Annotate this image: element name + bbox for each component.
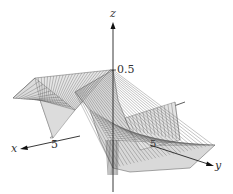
z-axis-arrow-icon xyxy=(111,22,116,29)
surface-plot xyxy=(0,0,233,194)
x-tick-label: 5 xyxy=(51,139,58,150)
y-axis-arrow-icon xyxy=(206,162,214,167)
y-axis-label: y xyxy=(215,160,221,171)
z-axis-label: z xyxy=(110,8,116,19)
y-tick-label: 5 xyxy=(150,139,156,149)
z-tick-label: 0.5 xyxy=(117,64,135,75)
x-axis-label: x xyxy=(11,143,17,154)
x-axis-arrow-icon xyxy=(20,146,28,151)
